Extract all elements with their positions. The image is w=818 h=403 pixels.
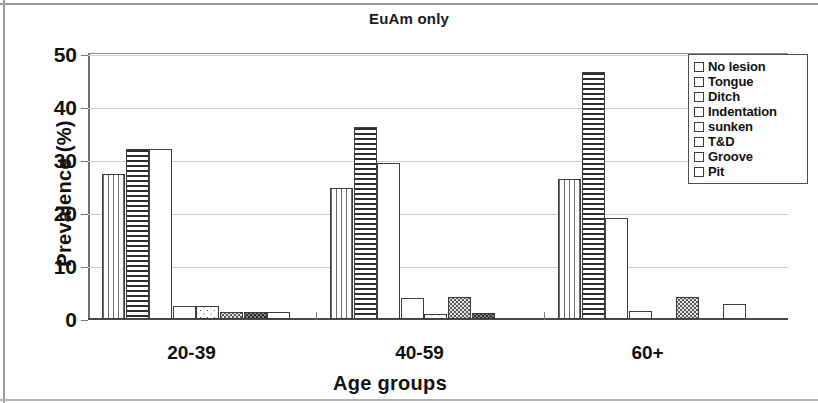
plot-top-rule <box>88 53 788 54</box>
x-tick-label: 40-59 <box>395 342 444 364</box>
legend-item-label: Groove <box>708 150 753 163</box>
scan-border-top <box>0 3 818 5</box>
legend-swatch-icon <box>694 167 704 177</box>
legend-item-label: Pit <box>708 165 724 178</box>
y-tick-mark <box>81 55 88 56</box>
y-tick-label: 30 <box>54 149 77 173</box>
y-tick-mark <box>81 214 88 215</box>
scan-border-bottom <box>0 399 818 401</box>
legend-swatch-icon <box>694 77 704 87</box>
legend-item: sunken <box>694 119 803 134</box>
legend-item-label: Indentation <box>708 105 777 118</box>
x-axis-group-separator <box>316 312 317 320</box>
bar <box>582 72 605 320</box>
legend-swatch-icon <box>694 152 704 162</box>
bar <box>267 312 290 319</box>
legend-item-label: T&D <box>708 135 734 148</box>
plot-area: 01020304050 20-3940-5960+ <box>88 53 788 320</box>
x-axis-group-separator <box>544 312 545 320</box>
gridline <box>88 214 788 215</box>
gridline <box>88 161 788 162</box>
bar <box>330 188 353 319</box>
bar <box>558 179 581 319</box>
legend-item-label: sunken <box>708 120 753 133</box>
bar <box>196 306 219 319</box>
x-tick-label: 20-39 <box>167 342 216 364</box>
bar <box>424 314 447 319</box>
bar <box>354 127 377 319</box>
bar <box>220 312 243 319</box>
bar <box>244 312 267 319</box>
y-tick-label: 0 <box>65 308 77 332</box>
legend-item-label: Ditch <box>708 90 740 103</box>
scan-border-left <box>3 0 5 403</box>
bar <box>676 297 699 319</box>
y-tick-label: 40 <box>54 96 77 120</box>
legend-item-label: No lesion <box>708 60 766 73</box>
chart-figure: EuAm only Prevalence (%) Age groups 0102… <box>0 0 818 403</box>
y-tick-mark <box>81 320 88 321</box>
x-tick-label: 60+ <box>631 342 663 364</box>
bar <box>472 313 495 319</box>
y-axis-line <box>88 53 90 320</box>
legend-item: Tongue <box>694 74 803 89</box>
legend-swatch-icon <box>694 62 704 72</box>
legend-swatch-icon <box>694 122 704 132</box>
bar <box>448 297 471 319</box>
legend-item: Indentation <box>694 104 803 119</box>
legend-item: Ditch <box>694 89 803 104</box>
bar <box>629 311 652 319</box>
legend: No lesionTongueDitchIndentationsunkenT&D… <box>688 54 808 184</box>
y-tick-label: 20 <box>54 202 77 226</box>
y-tick-label: 50 <box>54 43 77 67</box>
bar <box>102 174 125 319</box>
legend-item: T&D <box>694 134 803 149</box>
y-tick-mark <box>81 267 88 268</box>
bar <box>126 149 149 319</box>
legend-item-label: Tongue <box>708 75 753 88</box>
y-tick-mark <box>81 161 88 162</box>
legend-swatch-icon <box>694 107 704 117</box>
gridline <box>88 267 788 268</box>
legend-item: Groove <box>694 149 803 164</box>
legend-swatch-icon <box>694 137 704 147</box>
y-tick-label: 10 <box>54 255 77 279</box>
x-axis-title: Age groups <box>60 372 720 395</box>
chart-title: EuAm only <box>0 10 818 27</box>
bar <box>377 163 400 319</box>
bar <box>173 306 196 319</box>
legend-item: Pit <box>694 164 803 179</box>
legend-item: No lesion <box>694 59 803 74</box>
gridline <box>88 55 788 56</box>
legend-swatch-icon <box>694 92 704 102</box>
bar <box>401 298 424 319</box>
bar <box>605 218 628 319</box>
y-tick-mark <box>81 108 88 109</box>
gridline <box>88 108 788 109</box>
bar <box>149 149 172 319</box>
bar <box>723 304 746 319</box>
